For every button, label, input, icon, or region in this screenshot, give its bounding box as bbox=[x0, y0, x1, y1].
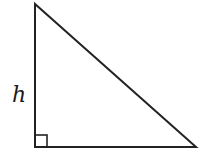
height-label: h bbox=[12, 84, 26, 106]
triangle-diagram bbox=[0, 0, 202, 161]
right-triangle bbox=[35, 4, 196, 147]
right-angle-marker bbox=[35, 135, 47, 147]
